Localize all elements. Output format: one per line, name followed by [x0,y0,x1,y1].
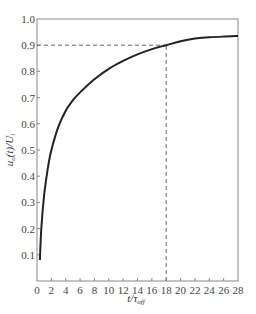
y-tick-label: 0.2 [21,223,35,235]
dashed-guides [37,45,166,281]
y-tick-label: 0.8 [21,65,35,77]
x-tick-label: 10 [103,284,115,296]
x-tick-label: 0 [34,284,40,296]
data-curve [40,36,238,260]
x-tick-label: 20 [175,284,187,296]
x-tick-label: 24 [204,284,216,296]
x-axis-title: t/τoff [127,292,146,306]
y-tick-label: 1.0 [21,13,35,25]
y-tick-label: 0.4 [21,170,35,182]
y-tick-label: 0.9 [21,39,35,51]
x-tick-label: 22 [189,284,200,296]
y-tick-label: 0.6 [21,118,35,130]
plot-border [37,19,238,281]
x-tick-label: 18 [161,284,173,296]
x-tick-label: 2 [49,284,55,296]
x-tick-label: 26 [218,284,230,296]
svg-text:uo(t)/Ui: uo(t)/Ui [3,134,17,166]
plot-frame [37,19,238,281]
y-tick-label: 0.3 [21,196,35,208]
x-tick-label: 8 [92,284,98,296]
x-tick-label: 6 [77,284,83,296]
chart: 02468101214161820222426280.10.20.30.40.5… [0,0,256,314]
svg-text:t/τoff: t/τoff [127,292,146,306]
x-tick-label: 4 [63,284,69,296]
x-tick-label: 28 [233,284,245,296]
y-axis-title: uo(t)/Ui [3,134,17,166]
x-tick-label: 16 [146,284,158,296]
y-tick-label: 0.7 [21,92,35,104]
y-tick-label: 0.5 [21,144,35,156]
y-tick-label: 0.1 [21,249,35,261]
series-line [40,36,238,260]
